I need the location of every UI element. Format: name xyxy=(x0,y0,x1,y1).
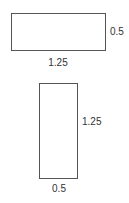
portrait-rectangle-group: 1.25 0.5 xyxy=(40,84,102,195)
landscape-rectangle xyxy=(12,14,106,51)
portrait-height-label: 1.25 xyxy=(82,116,102,127)
landscape-height-label: 0.5 xyxy=(110,26,124,37)
portrait-width-label: 0.5 xyxy=(52,183,66,194)
landscape-rectangle-group: 0.5 1.25 xyxy=(12,14,125,69)
portrait-rectangle xyxy=(40,84,78,179)
landscape-width-label: 1.25 xyxy=(48,57,68,68)
rectangles-diagram: 0.5 1.25 1.25 0.5 xyxy=(0,0,129,203)
